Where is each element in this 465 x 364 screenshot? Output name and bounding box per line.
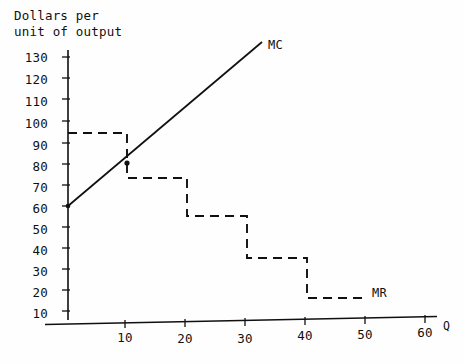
- x-axis-line: [45, 317, 437, 325]
- marginal-cost-revenue-chart: Dollars per unit of output 130 120 110 1…: [0, 0, 465, 364]
- y-axis-ticks: [62, 57, 70, 311]
- plot-canvas: [0, 0, 465, 364]
- mr-step-curve: [68, 133, 366, 298]
- mc-curve: [68, 42, 262, 206]
- mc-origin-marker: [66, 204, 71, 209]
